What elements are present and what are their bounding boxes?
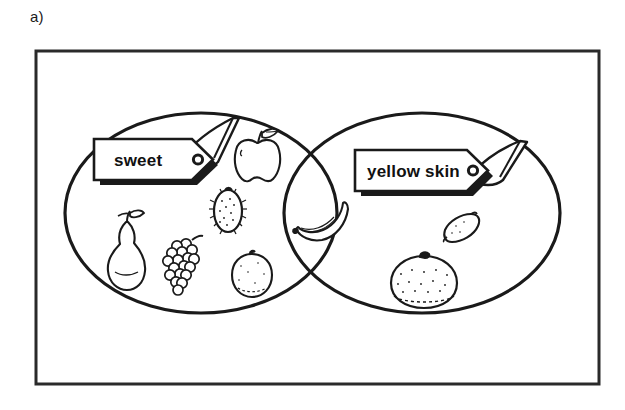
kiwi-body — [214, 190, 242, 232]
venn-diagram-canvas: sweet yellow skin — [0, 0, 625, 410]
apple-body — [235, 140, 280, 181]
banana-tip — [293, 229, 298, 233]
grapefruit-stem — [420, 252, 429, 258]
tag-yellow-skin-eyelet — [468, 166, 477, 175]
tag-sweet-eyelet — [193, 155, 202, 164]
tag-sweet-label: sweet — [114, 151, 162, 170]
figure-root: a) sweet yellow skin — [0, 0, 625, 410]
tag-yellow-skin-label: yellow skin — [367, 162, 460, 181]
orange-body — [232, 254, 272, 297]
universe-frame — [36, 51, 599, 384]
grapefruit-body — [391, 256, 457, 308]
